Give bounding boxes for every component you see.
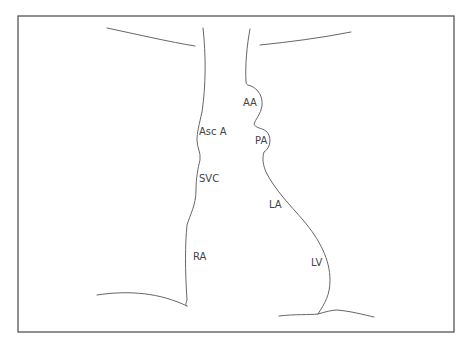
right-diaphragm-outline — [97, 293, 187, 306]
label-superior-vena-cava: SVC — [199, 174, 219, 184]
label-aortic-arch: AA — [243, 98, 257, 108]
right-heart-border — [186, 28, 206, 306]
left-diaphragm-outline — [279, 310, 374, 317]
label-pulmonary-artery: PA — [255, 136, 267, 146]
cardiac-silhouette-diagram — [0, 0, 465, 347]
right-clavicle-outline — [260, 32, 351, 45]
left-clavicle-outline — [107, 28, 195, 46]
frame-border — [18, 16, 454, 332]
label-left-atrium: LA — [269, 200, 282, 210]
left-heart-border — [246, 29, 330, 314]
label-ascending-aorta: Asc A — [199, 127, 227, 137]
label-right-atrium: RA — [193, 252, 206, 262]
label-left-ventricle: LV — [311, 258, 322, 268]
